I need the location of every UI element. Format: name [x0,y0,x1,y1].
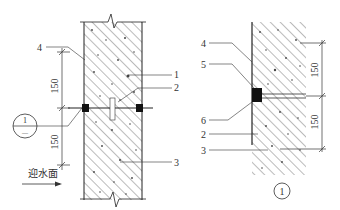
callout-4-right: 4 [201,38,206,49]
callout-3-left: 3 [174,157,179,168]
callout-leader-4-right [209,43,252,62]
section-number: 1 [23,116,27,125]
right-dimension-upper: 150 [309,63,320,78]
joint-detail-diagram: 150 150 4 1 2 3 1 — 迎水面 [0,0,340,210]
left-dimension-line [57,48,70,170]
right-dimension-lower: 150 [309,115,320,130]
left-dimension-lower: 150 [49,135,60,150]
left-section-view: 150 150 4 1 2 3 1 — 迎水面 [13,14,179,207]
sealant-block [252,88,262,102]
callout-6-right: 6 [201,115,206,126]
callout-leader-4-left [46,47,85,60]
section-marker: 1 — [13,108,82,138]
callout-leader-5 [209,64,254,88]
section-sheet: — [21,130,29,136]
callout-5-right: 5 [201,59,206,70]
callout-2-left: 2 [174,82,179,93]
detail-number: 1 [280,186,285,197]
waterstop-slot [110,98,115,120]
callout-2-right: 2 [201,129,206,140]
right-detail-view: 150 150 4 5 6 2 3 1 [201,22,326,199]
callout-1-left: 1 [174,69,179,80]
left-dimension-upper: 150 [49,79,60,94]
sealant-block-left [82,104,89,112]
detail-marker: 1 [274,183,290,199]
water-side-arrow [22,182,62,187]
callout-3-right: 3 [201,145,206,156]
sealant-block-right [136,104,143,112]
water-side-label: 迎水面 [28,168,58,179]
callout-leader-6 [209,102,252,120]
callout-4-left: 4 [37,42,42,53]
